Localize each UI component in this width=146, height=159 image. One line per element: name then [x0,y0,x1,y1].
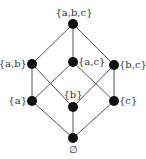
edge-c-empty [73,101,114,138]
node-label-ac: {a,c} [78,56,105,67]
edges [32,24,114,138]
node-c [109,96,119,106]
node-abc [68,19,78,29]
edge-ab-b [32,64,73,107]
node-label-a: {a} [8,95,27,106]
node-label-abc: {a,b,c} [55,7,92,18]
hasse-diagram: {a,b,c}{a,b}{a,c}{b,c}{a}{b}{c}∅ [0,0,146,159]
node-label-empty: ∅ [69,144,78,155]
node-empty [68,133,78,143]
edge-bc-b [73,65,114,107]
node-label-bc: {b,c} [119,59,146,70]
node-b [68,102,78,112]
edge-abc-ab [32,24,73,64]
node-label-c: {c} [119,95,137,106]
node-label-b: {b} [63,89,82,100]
edge-a-empty [32,101,73,138]
node-ac [68,57,78,67]
node-label-ab: {a,b} [0,58,27,69]
node-bc [109,60,119,70]
node-ab [27,59,37,69]
node-a [27,96,37,106]
